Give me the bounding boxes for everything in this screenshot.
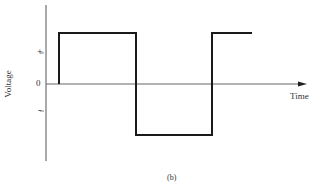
y-axis-label: Voltage	[3, 70, 13, 97]
figure-caption: (b)	[167, 174, 176, 182]
x-axis-arrow-icon	[298, 82, 307, 87]
square-wave-diagram	[0, 0, 326, 187]
tick-label-zero: 0	[36, 79, 41, 88]
tick-label-plus: +	[37, 47, 43, 57]
tick-label-minus: -	[38, 105, 41, 115]
x-axis-label: Time	[290, 92, 309, 101]
